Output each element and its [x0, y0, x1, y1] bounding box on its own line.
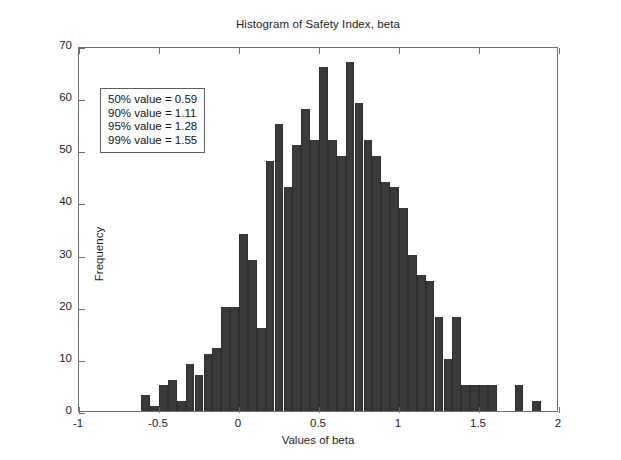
histogram-bar [230, 307, 239, 411]
y-tick-mark [79, 361, 85, 362]
x-tick-label: -0.5 [133, 417, 183, 429]
histogram-bar [408, 255, 417, 411]
histogram-bar [186, 364, 195, 411]
x-tick-mark [559, 407, 560, 413]
y-tick-mark [79, 309, 85, 310]
x-tick-label: 0 [213, 417, 263, 429]
x-tick-mark [159, 407, 160, 413]
percentile-line: 50% value = 0.59 [108, 93, 197, 107]
y-tick-label: 70 [32, 39, 72, 51]
histogram-bar [239, 234, 248, 411]
chart-title: Histogram of Safety Index, beta [78, 18, 558, 30]
x-tick-mark [319, 48, 320, 54]
histogram-bar [390, 187, 399, 411]
percentile-line: 95% value = 1.28 [108, 120, 197, 134]
histogram-bar [488, 385, 497, 411]
x-tick-label: 1 [373, 417, 423, 429]
histogram-bar [177, 401, 186, 411]
y-tick-label: 40 [32, 195, 72, 207]
histogram-bar [212, 348, 221, 411]
y-tick-mark [79, 100, 85, 101]
x-axis-title: Values of beta [78, 434, 558, 446]
histogram-bar [221, 307, 230, 411]
x-tick-mark [239, 407, 240, 413]
histogram-bar [364, 140, 373, 411]
histogram-bar [310, 140, 319, 411]
x-tick-mark [79, 407, 80, 413]
y-axis-title: Frequency [93, 174, 105, 334]
y-tick-label: 20 [32, 300, 72, 312]
x-tick-label: 2 [533, 417, 583, 429]
histogram-bar [532, 401, 541, 411]
histogram-bar [159, 385, 168, 411]
y-tick-mark [79, 257, 85, 258]
x-tick-label: -1 [53, 417, 103, 429]
x-tick-mark [399, 407, 400, 413]
y-tick-label: 0 [32, 404, 72, 416]
y-tick-label: 30 [32, 248, 72, 260]
histogram-bar [381, 182, 390, 411]
histogram-bar [372, 156, 381, 412]
histogram-bar [275, 124, 284, 411]
histogram-bar [319, 67, 328, 411]
y-tick-label: 10 [32, 352, 72, 364]
y-tick-mark [79, 152, 85, 153]
histogram-bar [417, 275, 426, 411]
x-tick-mark [319, 407, 320, 413]
histogram-bar [461, 385, 470, 411]
histogram-bar [168, 380, 177, 411]
histogram-bar [257, 328, 266, 411]
x-tick-mark [479, 407, 480, 413]
y-tick-mark [79, 204, 85, 205]
histogram-bar [435, 317, 444, 411]
y-tick-mark [79, 413, 85, 414]
percentile-line: 99% value = 1.55 [108, 134, 197, 148]
x-tick-mark [559, 48, 560, 54]
histogram-bar [284, 187, 293, 411]
histogram-bar [444, 359, 453, 411]
histogram-bar [426, 281, 435, 411]
histogram-bar [292, 145, 301, 411]
histogram-bar [195, 375, 204, 412]
x-tick-mark [79, 48, 80, 54]
x-tick-label: 0.5 [293, 417, 343, 429]
histogram-bar [399, 208, 408, 411]
histogram-figure: Histogram of Safety Index, beta Frequenc… [0, 0, 621, 460]
histogram-bar [479, 385, 488, 411]
histogram-bar [328, 140, 337, 411]
y-tick-label: 60 [32, 91, 72, 103]
percentile-annotation-box: 50% value = 0.5990% value = 1.1195% valu… [100, 88, 205, 153]
histogram-bar [141, 395, 150, 411]
histogram-bar [301, 109, 310, 411]
x-tick-mark [239, 48, 240, 54]
histogram-bar [266, 161, 275, 411]
percentile-line: 90% value = 1.11 [108, 107, 197, 121]
histogram-bar [452, 317, 461, 411]
histogram-bar [355, 103, 364, 411]
histogram-bar [470, 385, 479, 411]
histogram-bar [150, 406, 159, 411]
x-tick-label: 1.5 [453, 417, 503, 429]
x-tick-mark [159, 48, 160, 54]
histogram-bar [515, 385, 524, 411]
x-tick-mark [479, 48, 480, 54]
histogram-bar [346, 62, 355, 411]
histogram-bar [204, 354, 213, 411]
y-tick-label: 50 [32, 143, 72, 155]
histogram-bar [248, 260, 257, 411]
x-tick-mark [399, 48, 400, 54]
histogram-bar [337, 156, 346, 412]
